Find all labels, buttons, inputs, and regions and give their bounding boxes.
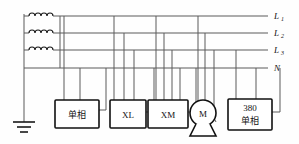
coil-l2: [24, 30, 60, 33]
load-label-xm: XM: [161, 110, 176, 120]
load-label-380-line2: 单相: [241, 115, 259, 126]
load-xl[interactable]: XL: [110, 100, 146, 128]
taps-xl-load: [114, 16, 154, 112]
bus-label-l1-sub: 1: [281, 16, 284, 22]
load-380-single-phase[interactable]: 380 单相: [228, 99, 272, 130]
transformer-source: [24, 13, 60, 68]
taps-xm-load: [156, 16, 196, 112]
bus-label-l3-sub: 3: [280, 50, 284, 56]
earth-ground: [13, 68, 35, 132]
bus-label-l3-main: L: [273, 45, 279, 55]
taps-single-phase-load: [64, 16, 106, 110]
load-label-xl: XL: [122, 110, 134, 120]
bus-label-l1-main: L: [273, 11, 279, 21]
coil-l3: [24, 47, 60, 50]
motor-pump[interactable]: M: [190, 100, 216, 136]
motor-label: M: [199, 109, 207, 119]
return-380: [272, 68, 280, 112]
pump-base: [190, 124, 216, 136]
load-label-single-phase: 单相: [68, 109, 86, 120]
bus-label-l2-main: L: [273, 28, 279, 38]
coil-l1: [24, 13, 60, 16]
load-xm[interactable]: XM: [148, 100, 188, 128]
bus-lines: [24, 16, 268, 68]
bus-label-l2-sub: 2: [281, 33, 284, 39]
load-label-380-line1: 380: [243, 103, 257, 113]
schematic-canvas: L 1 L 2 L 3 N: [0, 0, 299, 144]
circuit-diagram: L 1 L 2 L 3 N: [0, 0, 299, 144]
bus-labels: L 1 L 2 L 3 N: [273, 11, 284, 73]
load-single-phase[interactable]: 单相: [55, 100, 99, 128]
